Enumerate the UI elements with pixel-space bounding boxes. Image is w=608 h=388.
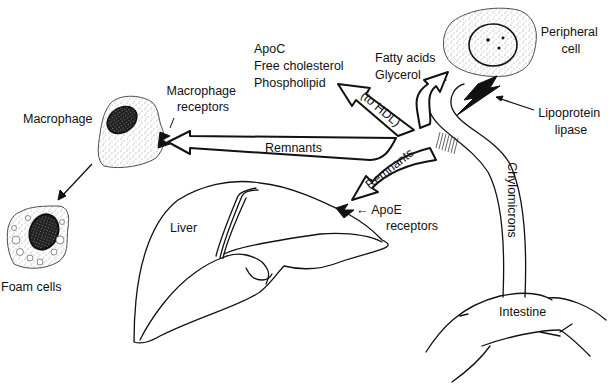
foam-cell	[7, 206, 68, 268]
peripheral-cell	[443, 8, 536, 76]
fatty-acids-arrow	[417, 72, 449, 128]
intestine-label: Intestine	[499, 305, 546, 319]
macrophage-to-foam-arrow	[62, 164, 92, 196]
hdl-products-label: ApoC Free cholesterol Phospholipid	[254, 42, 347, 90]
foam-cells-label: Foam cells	[1, 280, 61, 294]
macrophage-receptor-pointer	[170, 118, 174, 128]
liver-label: Liver	[170, 221, 197, 235]
lipoprotein-lipase-label: Lipoprotein lipase	[538, 106, 603, 137]
macrophage-label: Macrophage	[23, 112, 93, 126]
apoe-receptors-label: ← ApoE receptors	[356, 203, 438, 233]
liver	[134, 182, 388, 343]
lipoprotein-lipase-icon	[456, 76, 500, 116]
lipase-pointer-arrow	[498, 98, 534, 110]
macrophage-receptors-label: Macrophage receptors	[167, 84, 240, 114]
chylomicrons-label: Chylomicrons	[505, 162, 519, 238]
remnants-horizontal-label: Remnants	[265, 141, 322, 155]
chylomicron-pathway-diagram: Peripheral cell Lipoprotein lipase Chylo…	[0, 0, 608, 388]
macrophage-cell	[98, 96, 164, 167]
to-hdl-label: (to HDL)	[358, 88, 403, 129]
peripheral-cell-label: Peripheral cell	[541, 25, 601, 56]
